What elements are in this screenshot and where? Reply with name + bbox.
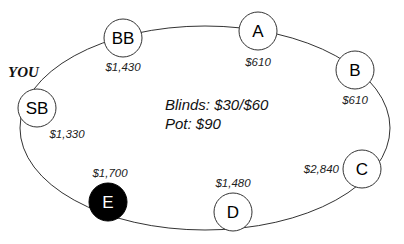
seat-bb[interactable]: BB [104, 19, 142, 57]
blinds-label: Blinds: $30/$60 [165, 96, 269, 113]
seat-stack-d: $1,480 [214, 177, 251, 189]
seat-stack-bb: $1,430 [104, 61, 141, 73]
seat-stack-a: $610 [244, 56, 271, 68]
seat-c[interactable]: C [343, 150, 381, 188]
seat-label: E [102, 193, 113, 212]
poker-table-diagram: YOU Blinds: $30/$60 Pot: $90 BB $1,430 A… [0, 0, 404, 244]
seat-stack-c: $2,840 [303, 163, 340, 175]
seat-a[interactable]: A [239, 12, 277, 50]
seat-label: BB [112, 29, 135, 48]
seat-label: C [356, 160, 368, 179]
seat-b[interactable]: B [336, 51, 374, 89]
seat-d[interactable]: D [214, 193, 252, 231]
pot-label: Pot: $90 [165, 115, 222, 132]
seat-sb[interactable]: SB [18, 89, 56, 127]
seat-stack-e: $1,700 [91, 167, 128, 179]
seat-e[interactable]: E [89, 183, 127, 221]
seat-label: A [252, 22, 264, 41]
seat-label: SB [26, 99, 49, 118]
seat-stack-sb: $1,330 [48, 128, 85, 140]
seat-label: D [227, 203, 239, 222]
hero-label: YOU [8, 64, 40, 80]
seat-label: B [349, 61, 360, 80]
seat-stack-b: $610 [341, 94, 368, 106]
